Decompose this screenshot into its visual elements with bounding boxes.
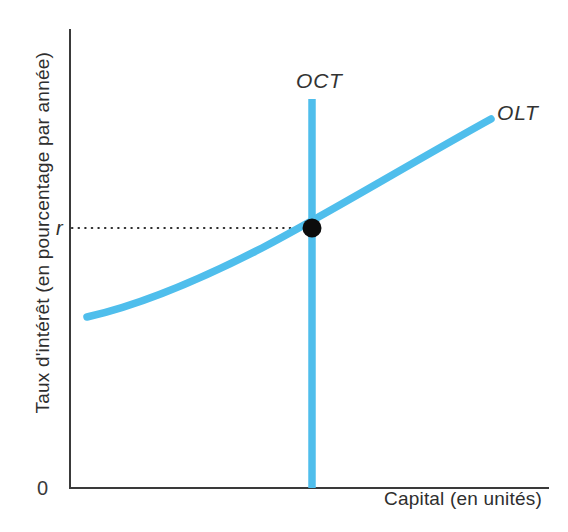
origin-label: 0 [37,478,48,498]
chart-figure: OCT OLT r 0 Capital (en unités) Taux d'i… [0,0,568,532]
y-axis-title: Taux d'intérêt (en pourcentage par année… [33,74,52,414]
curve-label-oct: OCT [296,70,343,91]
chart-canvas [0,0,568,532]
curve-label-olt: OLT [497,102,539,123]
curve-olt-long-run-supply [87,119,491,317]
x-axis-title: Capital (en unités) [384,489,542,508]
y-axis-tick-label-r: r [56,218,63,238]
equilibrium-point-marker [303,219,322,238]
